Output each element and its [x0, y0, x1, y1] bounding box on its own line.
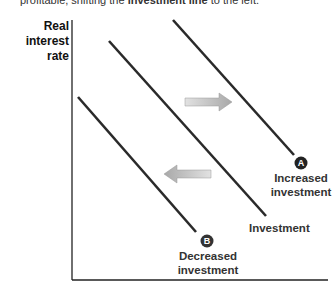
decreased-label-line2: investment	[172, 263, 244, 277]
increased-label-line2: investment	[264, 185, 336, 199]
decreased-label-line1: Decreased	[172, 249, 244, 263]
increased-investment-label: Increased investment	[264, 171, 336, 199]
investment-line	[109, 41, 266, 216]
decreased-investment-label: Decreased investment	[172, 249, 244, 277]
arrow-left-icon	[164, 165, 211, 183]
marker-a-letter: A	[295, 156, 307, 170]
arrow-right-icon	[185, 93, 232, 111]
marker-b-letter: B	[201, 234, 213, 248]
increased-investment-line	[173, 20, 294, 155]
investment-label: Investment	[249, 221, 310, 235]
increased-label-line1: Increased	[264, 171, 336, 185]
